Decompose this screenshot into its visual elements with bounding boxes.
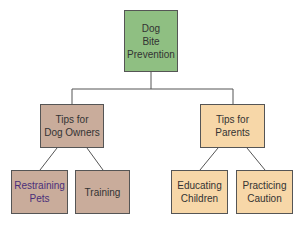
node-tips-for-dog-owners: Tips for Dog Owners [40, 104, 104, 148]
node-practicing-caution: Practicing Caution [236, 170, 293, 214]
node-label: Restraining [14, 179, 65, 192]
node-label: Pets [14, 192, 65, 205]
node-label: Dog Owners [44, 126, 100, 139]
node-educating-children: Educating Children [171, 170, 228, 214]
node-dog-bite-prevention: Dog Bite Prevention [124, 10, 178, 72]
node-tips-for-parents: Tips for Parents [200, 104, 265, 148]
node-label: Tips for [215, 113, 249, 126]
node-label: Children [177, 192, 221, 205]
node-label: Parents [215, 126, 249, 139]
node-restraining-pets: Restraining Pets [11, 170, 68, 214]
node-label: Tips for [44, 113, 100, 126]
node-label: Caution [243, 192, 287, 205]
node-label: Training [85, 186, 121, 199]
node-label: Educating [177, 179, 221, 192]
node-label: Prevention [127, 48, 175, 61]
node-label: Practicing [243, 179, 287, 192]
node-label: Bite [127, 35, 175, 48]
node-label: Dog [127, 22, 175, 35]
node-training: Training [75, 170, 130, 214]
